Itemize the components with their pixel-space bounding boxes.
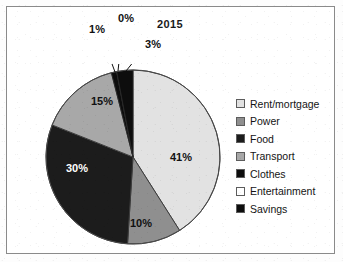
legend-swatch-icon: [236, 152, 245, 161]
chart-frame: 2015: [6, 6, 335, 254]
chart-legend: Rent/mortgage Power Food Transport Cloth…: [236, 95, 342, 218]
legend-label: Entertainment: [250, 186, 315, 197]
legend-label: Power: [250, 116, 280, 127]
legend-swatch-icon: [236, 204, 245, 213]
chart-page: 2015: [0, 0, 343, 262]
pie-value-label-power: 10%: [130, 217, 152, 229]
legend-label: Savings: [250, 204, 287, 215]
pie-callouts: 1% 0% 3%: [40, 8, 226, 68]
legend-label: Food: [250, 134, 274, 145]
pie-value-label-entertainment: 0%: [118, 12, 134, 24]
legend-item-rent-mortgage[interactable]: Rent/mortgage: [236, 95, 342, 113]
pie-svg: 41% 10% 30% 15%: [40, 64, 226, 250]
pie-value-label-transport: 15%: [91, 95, 113, 107]
legend-item-savings[interactable]: Savings: [236, 200, 342, 218]
legend-item-entertainment[interactable]: Entertainment: [236, 183, 342, 201]
pie-value-label-clothes: 1%: [89, 23, 105, 35]
legend-label: Clothes: [250, 169, 286, 180]
legend-item-transport[interactable]: Transport: [236, 148, 342, 166]
legend-swatch-icon: [236, 134, 245, 143]
legend-item-food[interactable]: Food: [236, 130, 342, 148]
legend-swatch-icon: [236, 99, 245, 108]
pie-value-label-rent-mortgage: 41%: [170, 151, 192, 163]
pie-value-label-savings: 3%: [145, 38, 161, 50]
legend-item-clothes[interactable]: Clothes: [236, 165, 342, 183]
pie-chart: 41% 10% 30% 15% 1% 0% 3%: [40, 64, 226, 250]
legend-swatch-icon: [236, 187, 245, 196]
legend-swatch-icon: [236, 117, 245, 126]
legend-swatch-icon: [236, 169, 245, 178]
pie-value-label-food: 30%: [66, 162, 88, 174]
legend-item-power[interactable]: Power: [236, 113, 342, 131]
legend-label: Transport: [250, 151, 295, 162]
legend-label: Rent/mortgage: [250, 99, 319, 110]
